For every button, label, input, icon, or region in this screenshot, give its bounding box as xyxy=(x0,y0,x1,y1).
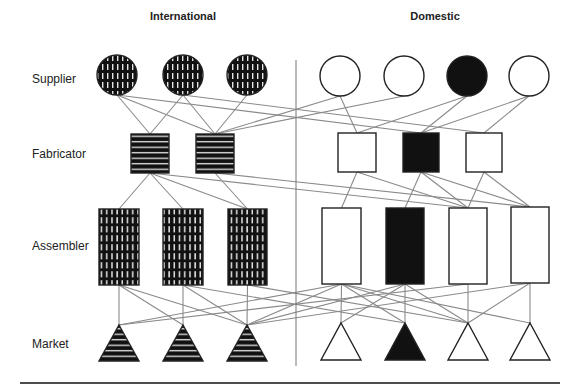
edge-DA1-M1 xyxy=(119,284,342,325)
market-node-m1 xyxy=(99,325,139,361)
edge-DS3-DF1 xyxy=(357,96,467,133)
diagram-canvas xyxy=(0,0,583,387)
assembler-node-da3 xyxy=(449,208,487,284)
supplier-node-ds3 xyxy=(447,56,487,96)
fabricator-node-f1 xyxy=(131,134,169,173)
market-node-m2 xyxy=(163,325,203,361)
market-node-m3 xyxy=(227,325,267,361)
fabricator-node-df2 xyxy=(403,133,439,172)
assembler-node-a2 xyxy=(163,209,203,285)
edge-F1-A1 xyxy=(119,173,150,209)
edge-DS4-DF2 xyxy=(421,96,529,133)
edge-DF3-DA3 xyxy=(468,172,484,208)
edge-DS2-F2 xyxy=(215,96,404,134)
market-node-dm1 xyxy=(321,323,361,360)
supplier-node-s2 xyxy=(163,55,203,95)
edge-F1-A2 xyxy=(150,173,183,209)
edge-A3-DM3 xyxy=(248,285,469,323)
edge-DA3-M1 xyxy=(119,284,468,325)
supplier-node-s3 xyxy=(227,55,267,95)
supplier-node-ds2 xyxy=(384,56,424,96)
market-node-dm4 xyxy=(510,323,550,360)
edge-DF3-DA4 xyxy=(484,172,530,207)
edge-DS1-DF1 xyxy=(340,96,357,133)
assembler-node-da1 xyxy=(322,208,361,284)
fabricator-node-df3 xyxy=(466,133,502,172)
fabricator-node-f2 xyxy=(196,134,234,173)
assembler-node-da2 xyxy=(386,208,424,284)
edge-DS4-DF3 xyxy=(484,96,529,133)
assembler-node-da4 xyxy=(511,207,549,283)
assembler-node-a1 xyxy=(99,209,139,285)
assembler-node-a3 xyxy=(228,209,267,285)
market-node-dm2 xyxy=(385,323,425,360)
edge-DF1-DA1 xyxy=(342,172,358,208)
edge-DF2-DA4 xyxy=(421,172,530,207)
fabricator-node-df1 xyxy=(338,133,376,172)
edge-A3-M3 xyxy=(247,285,248,325)
supplier-node-s1 xyxy=(97,55,137,95)
supplier-node-ds4 xyxy=(509,56,549,96)
edge-S1-F1 xyxy=(117,95,150,134)
edge-DF2-DA3 xyxy=(421,172,468,208)
market-node-dm3 xyxy=(448,323,488,360)
supplier-node-ds1 xyxy=(320,56,360,96)
edge-DA1-DM1 xyxy=(341,284,342,323)
edge-DA4-M3 xyxy=(247,283,530,325)
edge-F2-DA4 xyxy=(215,173,530,207)
edge-F2-A3 xyxy=(215,173,248,209)
